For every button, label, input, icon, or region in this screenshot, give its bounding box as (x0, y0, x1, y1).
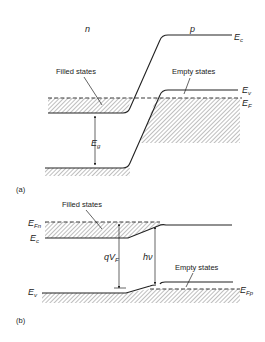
ev-band-edge-b-right (160, 282, 233, 284)
empty-states-label-a: Empty states (172, 67, 216, 76)
hv-label: hν (143, 252, 153, 262)
empty-states-label-b: Empty states (175, 263, 219, 272)
filled-states-label-b: Filled states (62, 200, 102, 209)
ev-label-b: Ev (28, 287, 38, 298)
panel-b: EFn Ec Ev EFp Filled states qVF hν Empty… (16, 200, 254, 325)
n-region-label: n (85, 24, 90, 34)
ec-label-b: Ec (30, 233, 39, 244)
ec-label-a: Ec (234, 32, 243, 43)
efp-label: EFp (240, 285, 254, 296)
filled-states-label-a: Filled states (56, 67, 96, 76)
n-side-filled-hatch (48, 98, 132, 113)
n-side-valence-hatch (45, 168, 130, 176)
qvf-label: qVF (104, 252, 119, 263)
ef-label-a: EF (242, 98, 252, 109)
panel-b-label: (b) (16, 316, 26, 325)
ev-label-a: Ev (242, 85, 252, 96)
valence-hatch-b (42, 289, 240, 303)
n-side-filled-hatch-b (45, 222, 161, 238)
panel-a: n p Ec Ev EF Filled states Empty states … (16, 24, 252, 194)
efn-label: EFn (28, 218, 42, 229)
eg-label: Eg (91, 138, 101, 149)
band-diagram-figure: n p Ec Ev EF Filled states Empty states … (0, 0, 265, 342)
panel-a-label: (a) (16, 185, 26, 194)
p-side-filled-hatch (140, 98, 240, 143)
empty-states-pointer-a (184, 78, 190, 94)
empty-states-pointer-b (186, 273, 193, 287)
p-region-label: p (189, 24, 195, 34)
